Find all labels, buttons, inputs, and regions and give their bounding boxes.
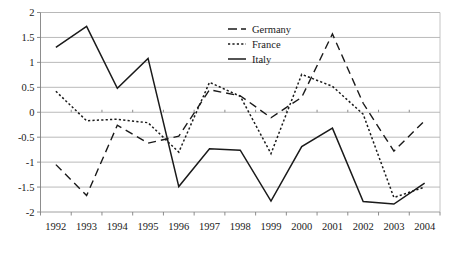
x-tick-label: 1999 — [260, 221, 281, 232]
x-tick-label: 1997 — [199, 221, 220, 232]
x-tick-label: 1995 — [138, 221, 159, 232]
chart-legend: GermanyFranceItaly — [228, 24, 292, 65]
chart-canvas: 21.510.50-0.5-1-1.5-2 199219931994199519… — [0, 0, 452, 254]
legend-label-france: France — [252, 39, 281, 50]
x-tick-label: 1994 — [107, 221, 129, 232]
x-tick-label: 1993 — [76, 221, 97, 232]
y-tick-label: 1.5 — [21, 32, 34, 43]
x-tick-label: 1996 — [168, 221, 189, 232]
x-axis-tick-labels: 1992199319941995199619971998199920002001… — [45, 221, 436, 232]
series-line-italy — [56, 26, 425, 204]
y-axis-tick-labels: 21.510.50-0.5-1-1.5-2 — [18, 7, 35, 218]
x-tick-label: 2004 — [414, 221, 436, 232]
x-tick-label: 2003 — [383, 221, 404, 232]
y-tick-label: 0.5 — [21, 82, 34, 93]
x-tick-label: 2000 — [291, 221, 312, 232]
legend-label-italy: Italy — [252, 54, 272, 65]
y-tick-label: 1 — [29, 57, 34, 68]
gridlines-group — [41, 13, 441, 213]
x-tick-label: 2001 — [322, 221, 343, 232]
y-tick-label: -0.5 — [18, 132, 35, 143]
y-tick-label: 0 — [29, 107, 34, 118]
y-tickmarks-group — [37, 13, 41, 213]
y-tick-label: 2 — [29, 7, 34, 18]
series-line-france — [56, 74, 425, 197]
y-tick-label: -1.5 — [18, 182, 35, 193]
x-tick-label: 2002 — [353, 221, 374, 232]
legend-label-germany: Germany — [252, 24, 292, 35]
x-tick-label: 1992 — [45, 221, 66, 232]
series-line-germany — [56, 34, 425, 196]
x-tick-label: 1998 — [230, 221, 251, 232]
y-tick-label: -1 — [26, 157, 35, 168]
y-tick-label: -2 — [26, 207, 35, 218]
data-series-group — [56, 26, 425, 204]
line-chart: 21.510.50-0.5-1-1.5-2 199219931994199519… — [0, 0, 452, 254]
